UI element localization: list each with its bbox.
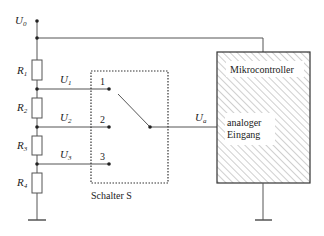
switch-lever (118, 94, 150, 127)
node-u2-dot (35, 125, 39, 129)
junction-dot (35, 36, 39, 40)
switch-contact-2 (107, 125, 111, 129)
resistor-r1 (32, 60, 42, 80)
resistor-r3 (32, 136, 42, 155)
u3-label: U3 (60, 148, 72, 162)
r3-label: R3 (16, 139, 28, 153)
switch-pivot (148, 125, 152, 129)
supply-terminal-dot (35, 19, 39, 23)
supply-label: U0 (15, 14, 27, 28)
mcu-input-line2: Eingang (227, 129, 260, 140)
switch-label: Schalter S (91, 190, 132, 201)
r2-label: R2 (16, 101, 28, 115)
node-u3-dot (35, 162, 39, 166)
switch-position-2: 2 (100, 114, 105, 125)
mcu-title: Mikrocontroller (230, 64, 295, 75)
u1-label: U1 (60, 73, 71, 87)
resistor-r4 (32, 173, 42, 193)
mcu-input-line1: analoger (227, 117, 262, 128)
switch-contact-3 (107, 162, 111, 166)
node-u1-dot (35, 87, 39, 91)
output-label: Ua (195, 111, 207, 125)
u2-label: U2 (60, 111, 72, 125)
r4-label: R4 (16, 176, 28, 190)
resistor-r2 (32, 98, 42, 118)
switch-position-3: 3 (100, 151, 105, 162)
switch-position-1: 1 (100, 76, 105, 87)
r1-label: R1 (16, 64, 27, 78)
voltage-divider-circuit: U0 R1 R2 R3 R4 U1 U2 U3 1 2 3 Schalter S… (0, 0, 324, 236)
switch-contact-1 (107, 87, 111, 91)
